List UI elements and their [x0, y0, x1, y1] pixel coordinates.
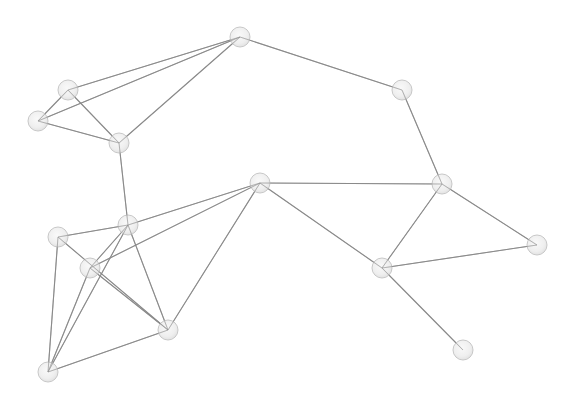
edge-overlay-11-12 — [382, 184, 442, 268]
edge-overlay-5-7 — [90, 225, 128, 268]
edge-overlay-8-9 — [48, 330, 168, 372]
edge-overlay-0-4 — [240, 37, 402, 90]
edge-overlay-10-8 — [168, 183, 260, 330]
edge-overlay-10-7 — [90, 183, 260, 268]
edge-overlay-2-3 — [38, 121, 119, 143]
edge-overlay-1-2 — [38, 90, 68, 121]
node-layer — [28, 27, 547, 382]
edge-overlay-0-2 — [38, 37, 240, 121]
network-graph — [0, 0, 575, 402]
edge-overlay-6-8 — [58, 237, 168, 330]
edge-overlay-3-5 — [119, 143, 128, 225]
edge-layer — [38, 37, 537, 372]
edge-overlay-12-13 — [382, 245, 537, 268]
edge-overlay-10-11 — [260, 183, 442, 184]
edge-overlay-12-14 — [382, 268, 463, 350]
edge-overlay-10-12 — [260, 183, 382, 268]
edge-overlay-5-6 — [58, 225, 128, 237]
edge-overlay-0-3 — [119, 37, 240, 143]
edge-overlay-10-5 — [128, 183, 260, 225]
edge-overlay-11-13 — [442, 184, 537, 245]
edge-overlay-0-1 — [68, 37, 240, 90]
edge-overlay-4-11 — [402, 90, 442, 184]
